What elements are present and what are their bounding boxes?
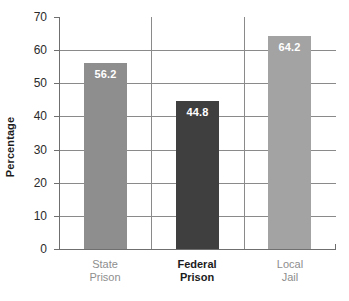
y-tick-label: 20 — [21, 177, 47, 189]
bar[interactable]: 56.2 — [84, 63, 127, 249]
category-separator — [244, 17, 245, 249]
bar-value-label: 56.2 — [84, 68, 127, 80]
category-label: LocalJail — [244, 258, 336, 284]
category-label-line1: State — [59, 258, 151, 271]
bar-value-label: 44.8 — [176, 106, 219, 118]
y-tick-label: 60 — [21, 44, 47, 56]
category-label-line2: Prison — [151, 271, 243, 284]
category-label-line1: Federal — [151, 258, 243, 271]
y-axis-title-text: Percentage — [4, 117, 16, 177]
category-label: StatePrison — [59, 258, 151, 284]
y-tick-label: 40 — [21, 110, 47, 122]
y-tick-label: 10 — [21, 210, 47, 222]
bar[interactable]: 64.2 — [268, 36, 311, 249]
category-label-line1: Local — [244, 258, 336, 271]
x-axis-line — [59, 249, 336, 250]
category-separator — [151, 17, 152, 249]
bar-value-label: 64.2 — [268, 41, 311, 53]
category-label-line2: Jail — [244, 271, 336, 284]
category-label: FederalPrison — [151, 258, 243, 284]
y-axis-line — [59, 17, 60, 250]
x-axis-end-tick — [335, 244, 336, 250]
bar[interactable]: 44.8 — [176, 101, 219, 249]
bar-chart: Percentage 010203040506070 56.244.864.2 … — [0, 0, 349, 301]
category-label-line2: Prison — [59, 271, 151, 284]
y-tick-label: 70 — [21, 11, 47, 23]
y-tick-label: 0 — [21, 243, 47, 255]
y-tick-label: 30 — [21, 144, 47, 156]
y-axis-title: Percentage — [2, 92, 18, 202]
y-tick-label: 50 — [21, 77, 47, 89]
